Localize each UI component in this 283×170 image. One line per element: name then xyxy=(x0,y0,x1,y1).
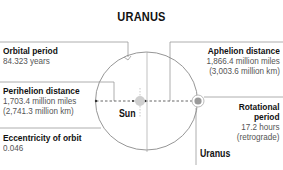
perihelion-heading: Perihelion distance xyxy=(3,86,80,96)
aphelion-label: Aphelion distance 1,866.4 million miles … xyxy=(198,46,280,76)
eccentricity-heading: Eccentricity of orbit xyxy=(3,133,82,143)
eccentricity-value: 0.046 xyxy=(3,143,83,153)
orbital-period-heading: Orbital period xyxy=(3,46,58,56)
uranus-label: Uranus xyxy=(200,148,230,159)
uranus-planet-icon xyxy=(194,97,201,104)
perihelion-label: Perihelion distance 1,703.4 million mile… xyxy=(3,86,90,116)
perihelion-value-miles: 1,703.4 million miles xyxy=(3,96,81,106)
sun-label: Sun xyxy=(119,108,136,119)
aphelion-heading: Aphelion distance xyxy=(208,46,280,56)
sun-icon xyxy=(135,96,145,106)
rotational-period-label: Rotational period 17.2 hours (retrograde… xyxy=(232,102,280,142)
aphelion-value-km: (3,003.6 million km) xyxy=(206,66,280,76)
orbital-period-label: Orbital period 84.323 years xyxy=(3,46,65,66)
rotational-note: (retrograde) xyxy=(237,132,280,142)
aphelion-value-miles: 1,866.4 million miles xyxy=(206,56,280,66)
eccentricity-label: Eccentricity of orbit 0.046 xyxy=(3,133,92,153)
rotational-value: 17.2 hours xyxy=(237,122,280,132)
rotational-heading-line2: period xyxy=(238,112,280,122)
orbital-period-value: 84.323 years xyxy=(3,56,59,66)
perihelion-value-km: (2,741.3 million km) xyxy=(3,106,81,116)
